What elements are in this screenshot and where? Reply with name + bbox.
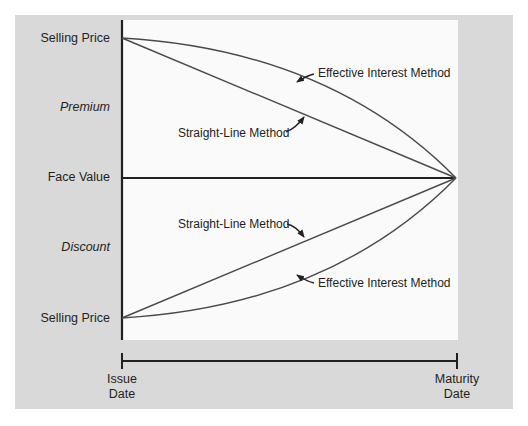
premium-straight-line bbox=[122, 38, 456, 178]
label-issue-line2: Date bbox=[107, 387, 137, 402]
annotation-premium-straight: Straight-Line Method bbox=[178, 126, 289, 140]
label-maturity-line1: Maturity bbox=[435, 372, 479, 387]
annotation-discount-straight: Straight-Line Method bbox=[178, 217, 289, 231]
label-discount: Discount bbox=[61, 240, 110, 254]
label-issue-line1: Issue bbox=[107, 372, 137, 387]
label-selling-price-bottom: Selling Price bbox=[41, 311, 110, 325]
annotation-discount-effective: Effective Interest Method bbox=[318, 276, 451, 290]
label-issue-date: Issue Date bbox=[107, 372, 137, 402]
arrow-discount-straight bbox=[287, 224, 304, 237]
label-face-value: Face Value bbox=[48, 170, 110, 184]
discount-straight-line bbox=[122, 178, 456, 318]
label-maturity-date: Maturity Date bbox=[435, 372, 479, 402]
label-premium: Premium bbox=[60, 100, 110, 114]
diagram-lines bbox=[0, 0, 528, 426]
annotation-premium-effective: Effective Interest Method bbox=[318, 66, 451, 80]
label-selling-price-top: Selling Price bbox=[41, 31, 110, 45]
label-maturity-line2: Date bbox=[435, 387, 479, 402]
